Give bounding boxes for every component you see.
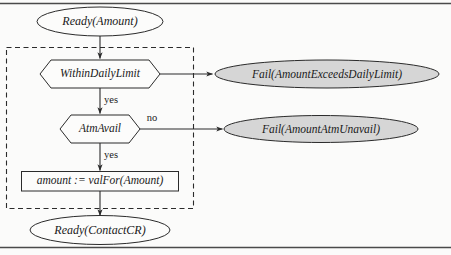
node-label-ready-contact-cr: Ready(ContactCR) — [53, 223, 145, 237]
node-label-fail-amount-atm-unavail: Fail(AmountAtmUnavail) — [261, 123, 380, 136]
node-assignment[interactable]: amount := valFor(Amount) — [22, 172, 179, 192]
edge-label-no-2: no — [147, 112, 158, 123]
node-ready-contact-cr[interactable]: Ready(ContactCR) — [30, 216, 170, 245]
node-ready-amount[interactable]: Ready(Amount) — [37, 7, 163, 36]
node-within-daily-limit[interactable]: WithinDailyLimit — [40, 60, 160, 88]
node-label-ready-amount: Ready(Amount) — [61, 14, 137, 28]
diagram-page: no yes no yes Ready(Amount) WithinDailyL… — [0, 0, 451, 255]
node-fail-amount-atm-unavail[interactable]: Fail(AmountAtmUnavail) — [224, 116, 418, 143]
flowchart-canvas: no yes no yes Ready(Amount) WithinDailyL… — [0, 0, 451, 255]
edge-label-yes-2: yes — [104, 149, 118, 160]
node-label-atm-avail: AtmAvail — [78, 122, 121, 134]
node-atm-avail[interactable]: AtmAvail — [60, 115, 140, 143]
node-fail-amount-exceeds-daily-limit[interactable]: Fail(AmountExceedsDailyLimit) — [215, 60, 439, 88]
edge-label-yes-1: yes — [104, 94, 118, 105]
node-label-within-daily-limit: WithinDailyLimit — [60, 67, 141, 80]
node-label-fail-amount-exceeds-daily-limit: Fail(AmountExceedsDailyLimit) — [251, 68, 402, 81]
node-label-assignment: amount := valFor(Amount) — [37, 174, 164, 187]
